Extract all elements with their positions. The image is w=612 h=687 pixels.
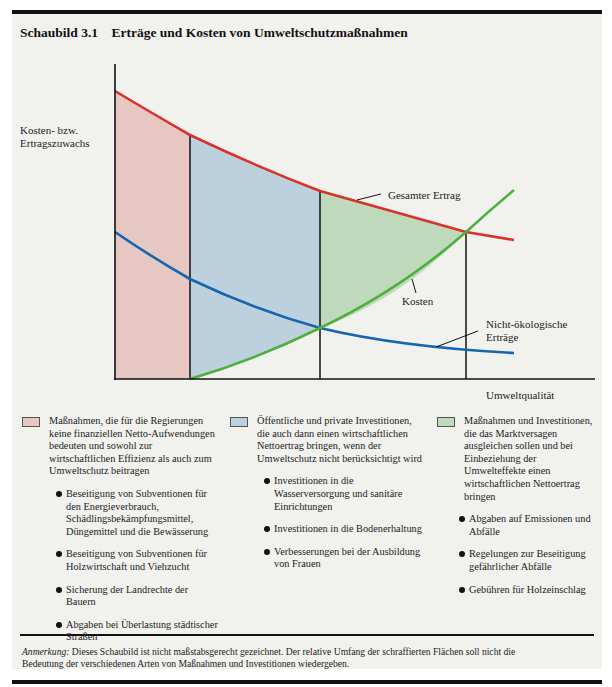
legend-item-pink: Maßnahmen, die für die Regierungen keine… bbox=[22, 415, 218, 654]
bullet-item: Investitionen in die Bodenerhaltung bbox=[266, 523, 426, 536]
x-axis-label: Umweltqualität bbox=[486, 389, 554, 402]
label-total-yield: Gesamter Ertrag bbox=[388, 189, 460, 202]
label-nonecological-line1: Nicht-ökologische bbox=[486, 318, 567, 331]
label-nonecological-yield: Nicht-ökologische Erträge bbox=[486, 318, 567, 344]
legend-bullets: Abgaben auf Emissionen und Abfälle Regel… bbox=[437, 513, 597, 596]
swatch-blue bbox=[230, 417, 248, 427]
bullet-item: Verbesserungen bei der Ausbildung von Fr… bbox=[266, 546, 426, 571]
bullet-item: Abgaben bei Überlastung städtischer Stra… bbox=[58, 619, 218, 644]
bullet-item: Investitionen in die Wasserversorgung un… bbox=[266, 475, 426, 513]
y-axis-label-line2: Ertragszuwachs bbox=[20, 137, 90, 150]
note-label: Anmerkung: bbox=[22, 646, 69, 657]
label-nonecological-line2: Erträge bbox=[486, 331, 567, 344]
swatch-green bbox=[437, 417, 455, 427]
swatch-pink bbox=[22, 417, 40, 427]
note-text: Dieses Schaubild ist nicht maßstabsgerec… bbox=[22, 646, 515, 669]
bullet-item: Beseitigung von Subventionen für den Ene… bbox=[58, 488, 218, 538]
legend-item-blue: Öffentliche und private Investitionen, d… bbox=[230, 415, 426, 581]
legend-heading: Maßnahmen, die für die Regierungen keine… bbox=[49, 415, 218, 478]
bullet-item: Gebühren für Holzeinschlag bbox=[461, 584, 597, 597]
region-blue bbox=[190, 135, 320, 379]
label-costs: Kosten bbox=[402, 295, 433, 308]
leader-total bbox=[357, 194, 381, 200]
legend-item-green: Maßnahmen und Investitionen, die das Mar… bbox=[437, 415, 597, 606]
y-axis-label: Kosten- bzw. Ertragszuwachs bbox=[20, 124, 90, 150]
legend-heading: Öffentliche und private Investitionen, d… bbox=[257, 415, 426, 465]
figure-note: Anmerkung: Dieses Schaubild ist nicht ma… bbox=[22, 646, 542, 670]
note-divider bbox=[20, 634, 594, 636]
leader-nonecological bbox=[436, 331, 478, 347]
bullet-item: Sicherung der Landrechte der Bauern bbox=[58, 584, 218, 609]
bullet-item: Beseitigung von Subventionen für Holzwir… bbox=[58, 548, 218, 573]
legend-heading: Maßnahmen und Investitionen, die das Mar… bbox=[464, 415, 597, 503]
bullet-item: Regelungen zur Beseitigung gefährlicher … bbox=[461, 548, 597, 573]
region-pink bbox=[115, 91, 190, 379]
bullet-item: Abgaben auf Emissionen und Abfälle bbox=[461, 513, 597, 538]
leader-costs bbox=[412, 279, 416, 293]
legend-bullets: Investitionen in die Wasserversorgung un… bbox=[230, 475, 426, 571]
legend-bullets: Beseitigung von Subventionen für den Ene… bbox=[22, 488, 218, 644]
y-axis-label-line1: Kosten- bzw. bbox=[20, 124, 90, 137]
bottom-rule bbox=[12, 680, 602, 684]
